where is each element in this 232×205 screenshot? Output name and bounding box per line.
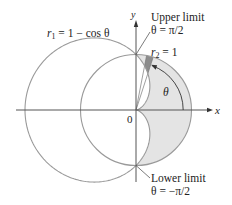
r2-equation-label: r2 = 1	[151, 46, 177, 62]
x-axis-arrow-icon	[207, 108, 213, 112]
lower-limit-title: Lower limit	[151, 172, 206, 184]
lower-limit-leader-line	[136, 166, 150, 179]
x-axis-label: x	[215, 104, 220, 116]
y-axis-label: y	[131, 9, 135, 21]
theta-label: θ	[163, 86, 169, 98]
upper-limit-leader-line	[136, 32, 150, 55]
y-axis-arrow-icon	[134, 20, 138, 27]
origin-label: 0	[127, 113, 133, 125]
r1-equation-label: r1 = 1 − cos θ	[47, 27, 109, 43]
upper-limit-title: Upper limit	[151, 11, 204, 23]
lower-limit-value: θ = −π/2	[151, 185, 190, 197]
r2-rhs: = 1	[159, 46, 177, 58]
r1-rhs: = 1 − cos θ	[55, 27, 109, 39]
upper-limit-value: θ = π/2	[151, 24, 184, 36]
